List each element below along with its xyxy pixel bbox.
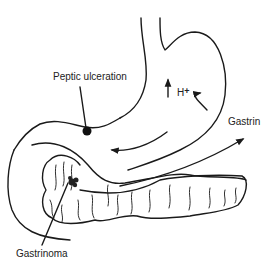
peptic-ulceration-leader	[80, 87, 86, 128]
acid-flow-arrow	[112, 132, 167, 150]
h-plus-sup: +	[184, 86, 189, 96]
h-plus-label: H+	[177, 86, 190, 98]
peptic-ulceration-label: Peptic ulceration	[53, 71, 127, 82]
gastrin-release-arrow	[120, 139, 243, 186]
stomach-lesser-curvature	[14, 118, 120, 150]
duodenum-outer	[8, 150, 70, 240]
gastrin-to-acid-arrow	[195, 93, 207, 110]
gastrinoma-tumor	[68, 176, 79, 187]
esophagus-left-wall	[120, 18, 146, 118]
pancreas-outline	[43, 155, 247, 223]
ulcer-dot	[83, 127, 92, 136]
gastrinoma-diagram	[0, 0, 274, 271]
gastrinoma-label: Gastrinoma	[16, 248, 68, 259]
gastrin-label: Gastrin	[228, 116, 260, 127]
